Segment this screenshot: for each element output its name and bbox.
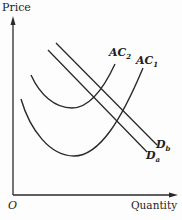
ac2-curve: [31, 64, 115, 108]
ac1-label-sub: 1: [153, 60, 158, 69]
ac2-label-main: AC: [109, 46, 126, 59]
y-axis-arrow-icon: [11, 16, 16, 25]
da-demand-line: [48, 50, 147, 152]
db-label-sub: b: [166, 144, 171, 153]
x-axis-arrow-icon: [169, 193, 178, 198]
da-label-sub: a: [156, 155, 161, 164]
origin-label: O: [8, 200, 17, 211]
da-label-main: D: [146, 149, 156, 162]
y-axis-label: Price: [2, 2, 31, 13]
ac2-label-sub: 2: [126, 52, 131, 61]
ac2-label: AC2: [109, 47, 131, 60]
diagram-canvas: Price O Quantity AC2 AC1 Db Da: [0, 0, 182, 220]
ac1-label: AC1: [136, 55, 158, 68]
x-axis-label: Quantity: [131, 200, 177, 211]
da-label: Da: [146, 150, 160, 163]
diagram-svg: [0, 0, 182, 220]
ac1-label-main: AC: [136, 54, 153, 67]
